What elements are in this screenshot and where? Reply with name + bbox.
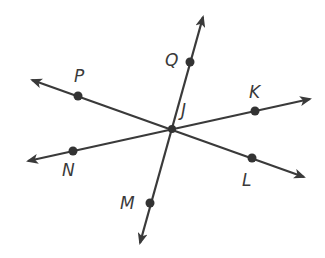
point-l — [248, 154, 257, 163]
label-n: N — [62, 160, 75, 180]
point-k — [251, 107, 260, 116]
label-q: Q — [165, 50, 178, 70]
label-m: M — [120, 193, 135, 213]
label-k: K — [249, 82, 262, 102]
point-j — [168, 125, 176, 133]
label-p: P — [74, 66, 85, 86]
geometry-diagram: QPKJNLM — [0, 0, 325, 258]
point-m — [146, 199, 155, 208]
point-p — [74, 92, 83, 101]
point-n — [69, 147, 78, 156]
label-l: L — [242, 170, 251, 190]
point-q — [186, 58, 195, 67]
